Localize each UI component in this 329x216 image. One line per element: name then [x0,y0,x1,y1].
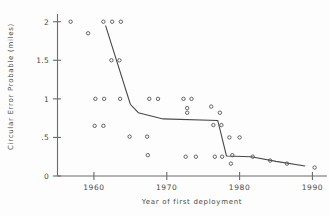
y-tick-label: 1 [44,95,49,104]
trend-polyline [106,26,306,166]
data-points-group [69,20,316,169]
data-point-marker [146,153,149,156]
y-tick-label: 1.5 [36,56,49,65]
data-point-marker [182,97,185,100]
x-tick-label: 1980 [229,183,251,192]
data-point-marker [156,97,159,100]
data-point-marker [86,32,89,35]
data-point-marker [185,106,188,109]
data-point-marker [184,155,187,158]
chart-container: 0.511.52 1960197019801990 Circular Error… [0,0,329,216]
data-point-marker [229,162,232,165]
y-axis-title: Circular Error Probable (miles) [7,23,15,150]
data-point-marker [209,105,212,108]
data-point-marker [212,123,215,126]
data-point-marker [118,59,121,62]
x-tick-label: 1960 [83,183,105,192]
data-point-marker [110,59,113,62]
x-tick-label: 1990 [302,183,324,192]
x-axis-title: Year of first deployment [141,198,243,206]
data-point-marker [69,20,72,23]
data-point-marker [102,124,105,127]
data-point-marker [190,97,193,100]
data-point-marker [102,97,105,100]
data-point-marker [228,136,231,139]
data-point-marker [94,97,97,100]
x-tick-label: 1970 [156,183,178,192]
data-point-marker [218,111,221,114]
y-tick-label: .5 [41,133,49,142]
data-point-marker [313,166,316,169]
data-point-marker [128,135,131,138]
x-tick-group: 1960197019801990 [83,172,323,192]
data-point-marker [148,97,151,100]
data-point-marker [118,97,121,100]
data-point-marker [220,123,223,126]
data-point-marker [213,155,216,158]
data-point-marker [119,20,122,23]
scatter-plot: 0.511.52 1960197019801990 Circular Error… [0,0,329,216]
y-tick-label: 0 [44,172,49,181]
data-point-marker [194,155,197,158]
data-point-marker [145,135,148,138]
data-point-marker [93,124,96,127]
data-point-marker [110,20,113,23]
data-point-marker [238,136,241,139]
y-tick-label: 2 [44,18,49,27]
data-point-marker [220,155,223,158]
data-point-marker [102,20,105,23]
trend-line-group [106,26,306,166]
data-point-marker [185,111,188,114]
